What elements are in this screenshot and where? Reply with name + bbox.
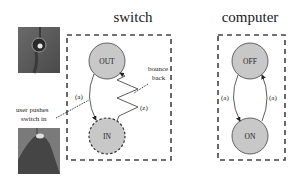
switch-out-photo [18,27,60,73]
transition-right-label: (a) [269,94,277,102]
svg-text:OFF: OFF [243,57,257,66]
user-pointer [56,100,89,118]
state-in: IN [89,118,125,154]
switch-title: switch [113,9,153,25]
state-out: OUT [89,43,125,79]
transition-left-label: (a) [221,94,229,102]
transition-press-arrow [89,74,96,120]
state-on: ON [232,118,268,154]
transition-press-label: (a) [75,93,83,101]
transition-bounce-zigzag [117,73,138,121]
user-label-line2: switch in [21,115,47,123]
transition-on-off-arrow [262,75,267,121]
svg-text:IN: IN [103,132,111,141]
bounce-label-line2: back [152,74,166,82]
bounce-label-line1: bounce [148,65,168,73]
transition-bounce-label: (z) [140,104,148,112]
user-label-line1: user pushes [16,106,49,114]
transition-off-on-arrow [233,75,240,121]
switch-in-photo [18,128,60,174]
svg-text:OUT: OUT [99,57,115,66]
state-diagram: switch OUT IN (a) (z) bounce back user p… [0,0,301,182]
state-off: OFF [232,43,268,79]
svg-text:ON: ON [245,132,256,141]
computer-title: computer [222,9,279,25]
